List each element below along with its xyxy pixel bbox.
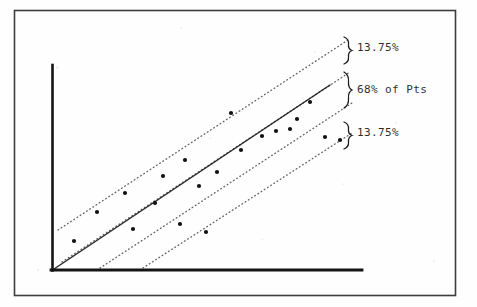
data-point — [288, 127, 292, 131]
data-point — [161, 174, 165, 178]
band-line-lower-inner — [100, 103, 352, 268]
data-point — [197, 184, 201, 188]
band-line-lower-outer — [143, 133, 352, 268]
upper-band-label: 13.75% — [357, 41, 399, 54]
band-line-upper-outer — [58, 40, 348, 230]
data-point — [338, 138, 342, 142]
data-point — [183, 158, 187, 162]
regression-line — [54, 85, 330, 269]
data-point — [131, 227, 135, 231]
data-point — [260, 134, 264, 138]
brace-middle-icon — [344, 72, 352, 108]
brace-upper-icon — [344, 37, 352, 64]
data-point — [323, 135, 327, 139]
data-point — [295, 117, 299, 121]
data-point — [215, 170, 219, 174]
middle-band-label: 68% of Pts — [357, 83, 427, 96]
figure-container: 13.75% 68% of Pts 13.75% — [0, 0, 477, 307]
data-point — [229, 111, 233, 115]
data-point — [308, 100, 312, 104]
data-point — [95, 210, 99, 214]
data-point — [204, 230, 208, 234]
data-point — [123, 191, 127, 195]
data-point — [178, 222, 182, 226]
plot-svg — [0, 0, 477, 307]
data-points — [72, 100, 342, 243]
data-point — [72, 239, 76, 243]
data-point — [153, 201, 157, 205]
brace-group — [344, 37, 352, 149]
data-point — [274, 129, 278, 133]
data-point — [239, 148, 243, 152]
lower-band-label: 13.75% — [357, 126, 399, 139]
